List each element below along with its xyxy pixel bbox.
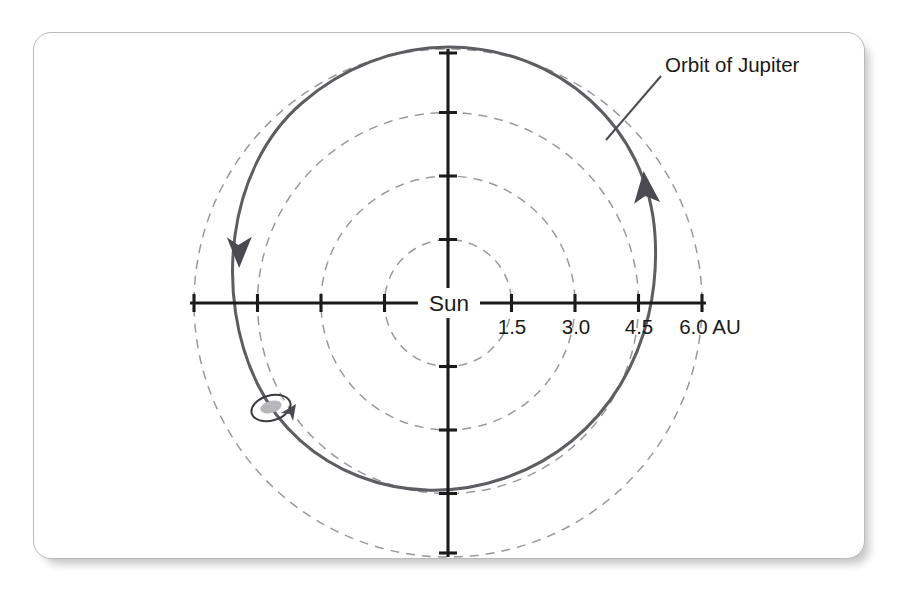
tick-label-6-0au: 6.0 AU bbox=[679, 315, 741, 338]
tick-label-1-5au: 1.5 bbox=[498, 315, 527, 338]
sun-label: Sun bbox=[429, 291, 469, 316]
tick-label-3-0au: 3.0 bbox=[562, 315, 591, 338]
tick-label-4-5au: 4.5 bbox=[625, 315, 654, 338]
orbit-diagram: Sun 1.5 3.0 4.5 6.0 AU Orbit of Jupiter bbox=[0, 0, 899, 596]
trajectory-arrow-right-icon bbox=[630, 169, 660, 205]
trajectory-arrow-left-icon bbox=[225, 235, 252, 268]
callout-group: Orbit of Jupiter bbox=[606, 53, 800, 140]
callout-label-orbit-of-jupiter: Orbit of Jupiter bbox=[665, 53, 800, 76]
sun-label-group: Sun bbox=[418, 288, 480, 318]
loop-ellipse-fill bbox=[259, 398, 283, 416]
tick-labels-group: 1.5 3.0 4.5 6.0 AU bbox=[498, 315, 741, 338]
callout-leader-line bbox=[606, 76, 661, 140]
